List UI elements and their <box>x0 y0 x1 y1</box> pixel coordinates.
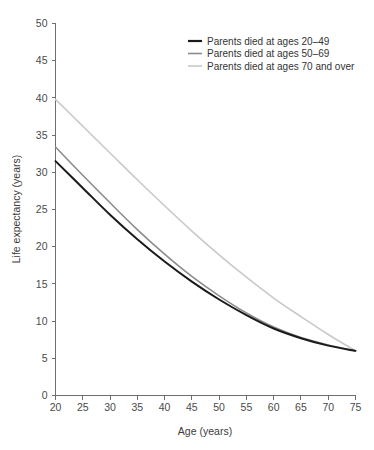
x-tick-label: 25 <box>77 401 89 413</box>
y-tick-label: 35 <box>36 129 48 141</box>
x-tick-label: 55 <box>241 401 253 413</box>
x-tick-label: 20 <box>50 401 62 413</box>
y-tick-label: 10 <box>36 315 48 327</box>
x-tick-label: 45 <box>186 401 198 413</box>
x-tick-label: 65 <box>295 401 307 413</box>
y-tick-label: 20 <box>36 240 48 252</box>
legend-label-3: Parents died at ages 70 and over <box>207 61 355 72</box>
y-tick-label: 45 <box>36 54 48 66</box>
x-tick-label: 35 <box>131 401 143 413</box>
x-tick-label: 40 <box>159 401 171 413</box>
y-axis-title: Life expectancy (years) <box>10 155 22 264</box>
y-tick-label: 0 <box>42 389 48 401</box>
x-tick-label: 50 <box>213 401 225 413</box>
chart-figure: 05101520253035404550 2025303540455055606… <box>0 0 374 450</box>
legend-label-2: Parents died at ages 50–69 <box>207 48 330 59</box>
legend-label-1: Parents died at ages 20–49 <box>207 36 330 47</box>
y-tick-label: 30 <box>36 166 48 178</box>
life-expectancy-line-chart: 05101520253035404550 2025303540455055606… <box>0 0 374 450</box>
x-tick-label: 60 <box>268 401 280 413</box>
y-tick-label: 5 <box>42 352 48 364</box>
x-tick-label: 30 <box>104 401 116 413</box>
x-tick-label: 75 <box>350 401 362 413</box>
x-axis-title: Age (years) <box>178 425 232 437</box>
y-tick-label: 25 <box>36 203 48 215</box>
y-tick-label: 40 <box>36 92 48 104</box>
y-tick-label: 15 <box>36 278 48 290</box>
x-tick-label: 70 <box>322 401 334 413</box>
y-tick-label: 50 <box>36 17 48 29</box>
